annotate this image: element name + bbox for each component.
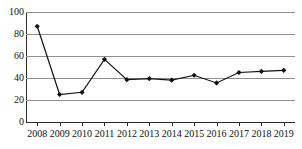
data-point-2013 [147,76,152,81]
y-tick-label-20: 20 [0,95,24,105]
x-tick-2009 [60,123,61,126]
x-tick-label-2019: 2019 [268,128,300,139]
data-point-2019 [281,68,286,73]
data-point-2015 [192,73,197,78]
x-tick-2010 [82,123,83,126]
data-point-2014 [169,78,174,83]
y-axis-labels: 020406080100 [0,12,24,122]
y-tick-label-0: 0 [0,117,24,127]
data-point-2016 [214,80,219,85]
x-axis-ticks [26,123,295,127]
y-tick-label-60: 60 [0,51,24,61]
x-tick-2015 [194,123,195,126]
line-chart: 020406080100 200820092010201120122013201… [0,0,302,149]
x-tick-2012 [127,123,128,126]
y-tick-label-100: 100 [0,7,24,17]
data-point-2018 [259,69,264,74]
plot-area [26,12,295,122]
x-tick-2011 [104,123,105,126]
series-line [26,12,295,122]
y-tick-label-80: 80 [0,29,24,39]
chart-title-remnant [18,0,288,3]
x-tick-2016 [217,123,218,126]
y-tick-label-40: 40 [0,73,24,83]
data-point-2009 [57,92,62,97]
x-tick-2014 [172,123,173,126]
x-tick-2017 [239,123,240,126]
x-tick-2019 [284,123,285,126]
x-axis-labels: 2008200920102011201220132014201520162017… [0,128,302,142]
x-tick-2018 [261,123,262,126]
series-polyline [37,26,284,94]
x-tick-2013 [149,123,150,126]
data-point-2008 [35,24,40,29]
data-point-2017 [236,70,241,75]
x-tick-2008 [37,123,38,126]
